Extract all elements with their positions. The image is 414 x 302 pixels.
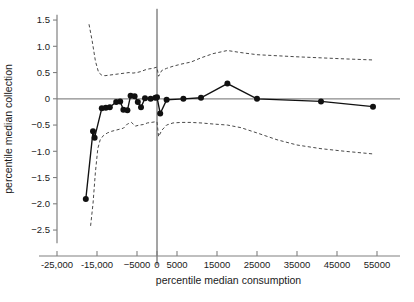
data-point-marker — [198, 95, 204, 101]
estimate-series-line — [86, 84, 373, 199]
data-point-marker — [180, 96, 186, 102]
x-axis-tick-label: 45000 — [324, 259, 350, 270]
x-axis-tick-label: 55000 — [364, 259, 390, 270]
x-axis-tick-label: 0 — [154, 259, 159, 270]
x-axis-tick-label: 5000 — [166, 259, 187, 270]
data-point-marker — [154, 94, 160, 100]
y-axis-tick-label: −1.5 — [31, 172, 50, 183]
data-point-marker — [254, 96, 260, 102]
data-point-marker — [138, 104, 144, 110]
x-axis-tick-label: 35000 — [284, 259, 310, 270]
y-axis: 1.51.00.50−0.5−1.0−1.5−2.0−2.5 percentil… — [2, 14, 57, 243]
chart-container: 1.51.00.50−0.5−1.0−1.5−2.0−2.5 percentil… — [0, 0, 414, 302]
x-axis-tick-label: -15,000 — [81, 259, 113, 270]
data-point-marker — [370, 104, 376, 110]
y-axis-tick-label: −2.5 — [31, 224, 50, 235]
data-point-marker — [157, 111, 163, 117]
data-point-marker — [135, 99, 141, 105]
plot-area — [57, 9, 400, 265]
data-point-marker — [132, 93, 138, 99]
y-axis-tick-label: 0.5 — [37, 67, 50, 78]
x-axis-ticks — [57, 251, 377, 256]
y-axis-tick-labels: 1.51.00.50−0.5−1.0−1.5−2.0−2.5 — [31, 14, 50, 235]
data-point-marker — [107, 104, 113, 110]
data-point-marker — [124, 107, 130, 113]
data-point-marker — [224, 81, 230, 87]
y-axis-tick-label: −1.0 — [31, 146, 50, 157]
upper-confidence-band-line — [89, 24, 373, 76]
data-point-marker — [164, 97, 170, 103]
x-axis-tick-labels: -25,000-15,000−5000050001500025000350004… — [41, 259, 390, 270]
y-axis-tick-label: 1.0 — [37, 41, 50, 52]
x-axis-tick-label: -25,000 — [41, 259, 73, 270]
x-axis-tick-label: −5000 — [124, 259, 151, 270]
x-axis-tick-label: 15000 — [204, 259, 230, 270]
y-axis-tick-label: 0 — [45, 93, 50, 104]
data-point-marker — [92, 135, 98, 141]
y-axis-tick-label: −0.5 — [31, 119, 50, 130]
data-point-marker — [90, 128, 96, 134]
data-point-marker — [83, 196, 89, 202]
x-axis-tick-label: 25000 — [244, 259, 270, 270]
y-axis-tick-label: 1.5 — [37, 14, 50, 25]
y-axis-tick-label: −2.0 — [31, 198, 50, 209]
data-point-marker — [142, 95, 148, 101]
percentile-median-scatter-line-chart: 1.51.00.50−0.5−1.0−1.5−2.0−2.5 percentil… — [0, 0, 414, 302]
x-axis: -25,000-15,000−5000050001500025000350004… — [39, 251, 400, 286]
data-point-marker — [117, 98, 123, 104]
data-point-marker — [318, 98, 324, 104]
lower-confidence-band-line — [91, 122, 373, 226]
x-axis-title: percentile median consumption — [156, 274, 301, 286]
y-axis-title: percentile median collection — [2, 64, 14, 194]
